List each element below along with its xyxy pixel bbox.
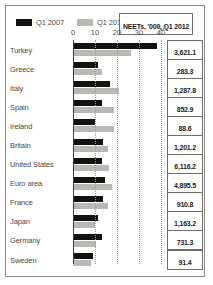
chart-row: Spain852.9 xyxy=(6,97,206,116)
category-label-germany: Germany xyxy=(10,236,40,245)
category-label-italy: Italy xyxy=(10,83,23,92)
chart-frame: Q1 2007 Q1 2012 NEETs, '000, Q1 2012 010… xyxy=(5,5,205,277)
value-label: 731.3 xyxy=(177,239,194,246)
gridline-10 xyxy=(95,40,97,264)
chart-legend: Q1 2007 Q1 2012 xyxy=(16,16,125,28)
category-label-japan: Japan xyxy=(10,217,30,226)
value-label: 88.6 xyxy=(179,125,192,132)
value-box: 910.8 xyxy=(167,192,203,212)
legend-label-q1-2007: Q1 2007 xyxy=(36,18,64,27)
bar-q1-2007 xyxy=(73,177,105,183)
category-label-euro-area: Euro area xyxy=(10,179,42,188)
bar-q1-2012 xyxy=(73,203,108,209)
category-label-united-states: United States xyxy=(10,160,54,169)
value-label: 283.3 xyxy=(177,68,194,75)
x-tick-label-20: 20 xyxy=(113,28,121,37)
value-label: 910.8 xyxy=(177,201,194,208)
category-label-france: France xyxy=(10,198,33,207)
bar-q1-2012 xyxy=(73,184,112,190)
gridline-40 xyxy=(161,40,163,264)
chart-row: United States6,116.2 xyxy=(6,155,206,174)
bar-q1-2007 xyxy=(73,81,110,87)
value-label: 6,116.2 xyxy=(174,163,196,170)
gridline-0 xyxy=(73,40,75,264)
value-box: 731.3 xyxy=(167,230,203,250)
value-box: 4,895.5 xyxy=(167,173,203,193)
category-label-turkey: Turkey xyxy=(10,45,32,54)
bar-q1-2012 xyxy=(73,107,114,113)
value-label: 1,201.2 xyxy=(174,144,196,151)
plot-area: Turkey3,621.1Greece283.3Italy1,287.8Spai… xyxy=(6,40,206,272)
x-axis-ticks: 010203040 xyxy=(6,28,206,40)
value-box: 1,163.2 xyxy=(167,211,203,231)
value-box: 91.4 xyxy=(167,250,203,270)
category-label-ireland: Ireland xyxy=(10,121,32,130)
category-label-greece: Greece xyxy=(10,64,34,73)
value-box: 852.9 xyxy=(167,97,203,117)
bar-q1-2012 xyxy=(73,222,95,228)
chart-row: Germany731.3 xyxy=(6,231,206,250)
chart-row: Turkey3,621.1 xyxy=(6,40,206,59)
chart-row: Britain1,201.2 xyxy=(6,135,206,154)
bar-q1-2007 xyxy=(73,196,103,202)
chart-row: Ireland88.6 xyxy=(6,116,206,135)
chart-row: Japan1,163.2 xyxy=(6,212,206,231)
bar-q1-2012 xyxy=(73,146,108,152)
chart-row: Italy1,287.8 xyxy=(6,78,206,97)
category-label-spain: Spain xyxy=(10,102,29,111)
x-tick-label-0: 0 xyxy=(71,28,75,37)
x-tick-label-40: 40 xyxy=(157,28,165,37)
gridline-20 xyxy=(117,40,119,264)
bar-q1-2007 xyxy=(73,234,102,240)
value-box: 88.6 xyxy=(167,116,203,136)
chart-row: Euro area4,895.5 xyxy=(6,174,206,193)
gridline-30 xyxy=(139,40,141,264)
bar-q1-2012 xyxy=(73,50,131,56)
value-label: 1,287.8 xyxy=(174,87,196,94)
bar-q1-2007 xyxy=(73,158,102,164)
category-label-sweden: Sweden xyxy=(10,255,37,264)
bar-q1-2007 xyxy=(73,253,93,259)
value-box: 1,287.8 xyxy=(167,78,203,98)
value-box: 6,116.2 xyxy=(167,154,203,174)
legend-swatch-q1-2007 xyxy=(16,19,32,26)
value-label: 91.4 xyxy=(179,259,192,266)
x-tick-label-30: 30 xyxy=(135,28,143,37)
chart-row: France910.8 xyxy=(6,193,206,212)
bar-q1-2007 xyxy=(73,43,157,49)
value-label: 4,895.5 xyxy=(174,182,196,189)
bar-q1-2012 xyxy=(73,241,96,247)
bar-q1-2007 xyxy=(73,139,103,145)
bar-q1-2007 xyxy=(73,100,102,106)
bar-q1-2007 xyxy=(73,119,95,125)
value-label: 3,621.1 xyxy=(174,49,196,56)
value-label: 852.9 xyxy=(177,106,194,113)
chart-row: Sweden91.4 xyxy=(6,250,206,269)
value-box: 283.3 xyxy=(167,59,203,79)
category-label-britain: Britain xyxy=(10,141,31,150)
bar-q1-2012 xyxy=(73,165,109,171)
value-label: 1,163.2 xyxy=(174,220,196,227)
value-box: 1,201.2 xyxy=(167,135,203,155)
legend-swatch-q1-2012 xyxy=(77,19,93,26)
chart-rows: Turkey3,621.1Greece283.3Italy1,287.8Spai… xyxy=(6,40,206,272)
chart-row: Greece283.3 xyxy=(6,59,206,78)
x-tick-label-10: 10 xyxy=(91,28,99,37)
bar-q1-2012 xyxy=(73,69,102,75)
bar-q1-2012 xyxy=(73,126,114,132)
bar-q1-2012 xyxy=(73,260,91,266)
value-box: 3,621.1 xyxy=(167,40,203,60)
